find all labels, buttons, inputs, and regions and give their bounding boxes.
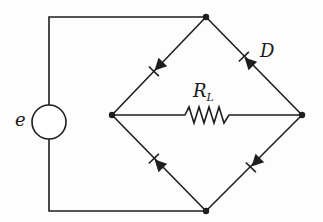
node-left: [109, 112, 115, 118]
source-label: e: [15, 111, 26, 129]
node-top: [203, 14, 209, 20]
wire-source-bottom: [49, 139, 206, 211]
voltage-source-icon: [32, 105, 66, 139]
load-label-subscript: L: [207, 91, 214, 104]
load-label-main: R: [193, 80, 207, 101]
node-bottom: [203, 208, 209, 214]
node-right: [299, 112, 305, 118]
circuit-drawing: [0, 0, 323, 222]
wire-source-top: [49, 17, 206, 105]
diode-label: D: [260, 42, 274, 60]
bridge-rectifier-diagram: e D RL: [0, 0, 323, 222]
wire-top-right: [206, 17, 302, 115]
resistor-icon: [112, 107, 302, 123]
load-resistor-label: RL: [193, 82, 214, 100]
